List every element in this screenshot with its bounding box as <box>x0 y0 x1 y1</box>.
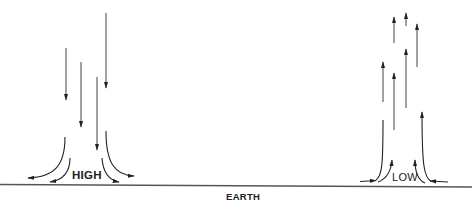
high-descending-arrows <box>66 13 106 150</box>
right-arrow-icon <box>360 181 376 182</box>
low-rising-arrows <box>383 13 417 130</box>
curved-line <box>376 120 383 180</box>
high-pressure-label: HIGH <box>72 169 102 181</box>
low-pressure-label: LOW <box>392 171 418 183</box>
curved-arrow-icon <box>28 137 65 178</box>
pressure-diagram: HIGH LOW EARTH <box>0 0 472 203</box>
curved-arrow-icon <box>106 131 134 176</box>
earth-ground-line <box>0 185 472 188</box>
left-arrow-icon <box>430 181 448 182</box>
curved-arrow-icon <box>422 112 431 181</box>
earth-label: EARTH <box>226 191 260 202</box>
curved-arrow-icon <box>378 160 392 182</box>
